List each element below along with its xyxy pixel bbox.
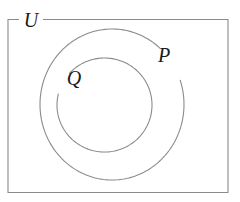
set-q-label: Q [67,67,82,89]
euler-diagram-canvas: U P Q [0,0,240,202]
set-p-label: P [157,44,170,66]
set-p: P [40,29,184,180]
euler-diagram-svg: U P Q [0,0,240,202]
universal-set-border [8,20,228,193]
universal-set-label: U [24,9,40,31]
universal-set-u: U [8,9,228,193]
set-q: Q [57,58,152,152]
